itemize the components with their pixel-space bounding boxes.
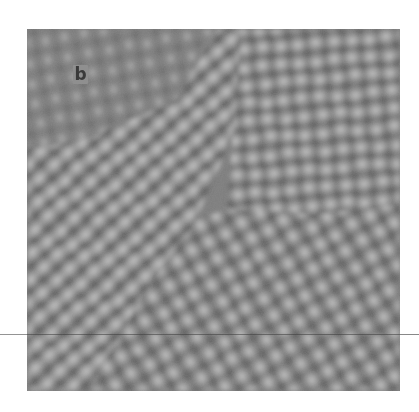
panel-label: b [73,65,88,84]
figure: b [0,0,419,412]
scan-line-stub [400,334,419,335]
scan-line-artifact [0,334,419,335]
micrograph-panel: b [27,29,400,391]
